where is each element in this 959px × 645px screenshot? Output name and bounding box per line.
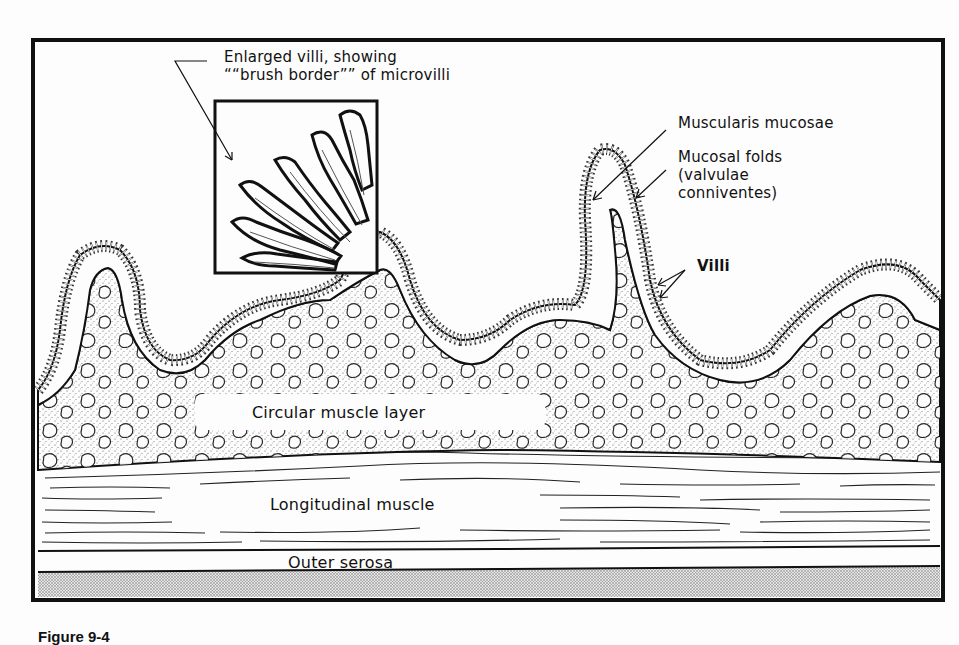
enlarged-villi-inset <box>215 101 377 273</box>
label-enlarged-villi-line2: ““brush border”” of microvilli <box>224 66 450 85</box>
label-outer-serosa: Outer serosa <box>288 553 393 572</box>
label-muscularis-mucosae: Muscularis mucosae <box>678 114 834 133</box>
label-mucosal-folds-line1: Mucosal folds <box>678 148 782 167</box>
label-enlarged-villi-line1: Enlarged villi, showing <box>224 48 397 67</box>
label-longitudinal-muscle: Longitudinal muscle <box>270 495 435 514</box>
label-mucosal-folds-line2: (valvulae <box>678 166 749 185</box>
label-villi: Villi <box>697 257 730 276</box>
label-circular-muscle: Circular muscle layer <box>252 403 425 422</box>
label-mucosal-folds-line3: conniventes) <box>678 184 777 203</box>
figure-caption: Figure 9-4 <box>38 628 110 645</box>
